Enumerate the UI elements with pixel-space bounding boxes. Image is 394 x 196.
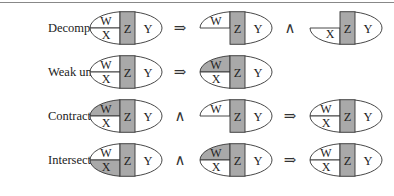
- svg-text:Z: Z: [124, 110, 132, 124]
- svg-text:Y: Y: [143, 66, 152, 80]
- svg-text:X: X: [102, 116, 111, 130]
- ellipse-diagram-icon: WXZY: [198, 142, 274, 178]
- svg-text:W: W: [100, 58, 112, 72]
- svg-text:Z: Z: [234, 154, 242, 168]
- and-operator: ∧: [279, 10, 301, 46]
- term-w-only-ellipse: WZY: [198, 98, 274, 134]
- svg-text:W: W: [210, 146, 222, 160]
- axiom-row-decomposition: Decomposition:WXZYWZYXZY⇒∧: [0, 10, 394, 54]
- svg-text:Y: Y: [143, 110, 152, 124]
- svg-text:W: W: [210, 102, 222, 116]
- svg-text:Y: Y: [253, 110, 262, 124]
- implies-operator: ⇒: [169, 10, 191, 46]
- svg-text:X: X: [102, 160, 111, 174]
- term-full-ellipse: WXZY: [88, 54, 164, 90]
- svg-text:W: W: [100, 14, 112, 28]
- term-x-only-ellipse: XZY: [308, 10, 384, 46]
- ellipse-diagram-icon: WZY: [198, 98, 274, 134]
- svg-text:W: W: [100, 102, 112, 116]
- svg-text:Z: Z: [124, 22, 132, 36]
- svg-text:X: X: [212, 160, 221, 174]
- ellipse-diagram-icon: WXZY: [198, 54, 274, 90]
- ellipse-diagram-icon: WXZY: [88, 142, 164, 178]
- svg-text:X: X: [102, 72, 111, 86]
- svg-text:Z: Z: [344, 110, 352, 124]
- svg-text:X: X: [212, 72, 221, 86]
- term-w-only-ellipse: WZY: [198, 10, 274, 46]
- svg-text:Z: Z: [124, 154, 132, 168]
- svg-text:X: X: [326, 27, 335, 41]
- svg-text:Z: Z: [234, 66, 242, 80]
- term-full-ellipse: WXZY: [308, 142, 384, 178]
- svg-text:Y: Y: [253, 66, 262, 80]
- svg-text:W: W: [320, 102, 332, 116]
- term-full-ellipse: WXZY: [308, 98, 384, 134]
- svg-text:Z: Z: [344, 154, 352, 168]
- svg-text:W: W: [100, 146, 112, 160]
- svg-text:X: X: [322, 160, 331, 174]
- svg-text:Z: Z: [234, 22, 242, 36]
- term-full-ellipse: WXZY: [198, 54, 274, 90]
- and-operator: ∧: [169, 142, 191, 178]
- ellipse-diagram-icon: XZY: [308, 10, 384, 46]
- term-full-ellipse: WXZY: [88, 142, 164, 178]
- svg-text:Y: Y: [363, 154, 372, 168]
- svg-text:Y: Y: [143, 154, 152, 168]
- axiom-row-intersection: Intersection:WXZYWXZYWXZY∧⇒: [0, 142, 394, 186]
- top-rule: [0, 2, 394, 3]
- term-full-ellipse: WXZY: [88, 10, 164, 46]
- svg-text:W: W: [210, 58, 222, 72]
- svg-text:W: W: [320, 146, 332, 160]
- svg-text:Y: Y: [363, 22, 372, 36]
- svg-text:W: W: [210, 14, 222, 28]
- term-full-ellipse: WXZY: [88, 98, 164, 134]
- svg-text:Z: Z: [344, 22, 352, 36]
- and-operator: ∧: [169, 98, 191, 134]
- axiom-row-contraction: Contraction:WXZYWZYWXZY∧⇒: [0, 98, 394, 142]
- term-full-ellipse: WXZY: [198, 142, 274, 178]
- svg-text:Z: Z: [234, 110, 242, 124]
- ellipse-diagram-icon: WZY: [198, 10, 274, 46]
- svg-text:Z: Z: [124, 66, 132, 80]
- svg-text:X: X: [322, 116, 331, 130]
- svg-text:Y: Y: [253, 22, 262, 36]
- implies-operator: ⇒: [279, 98, 301, 134]
- implies-operator: ⇒: [279, 142, 301, 178]
- ellipse-diagram-icon: WXZY: [308, 142, 384, 178]
- ellipse-diagram-icon: WXZY: [308, 98, 384, 134]
- svg-text:Y: Y: [253, 154, 262, 168]
- ellipse-diagram-icon: WXZY: [88, 10, 164, 46]
- ellipse-diagram-icon: WXZY: [88, 98, 164, 134]
- svg-text:Y: Y: [143, 22, 152, 36]
- svg-text:X: X: [102, 28, 111, 42]
- implies-operator: ⇒: [169, 54, 191, 90]
- ellipse-diagram-icon: WXZY: [88, 54, 164, 90]
- axiom-row-weakunion: Weak union:WXZYWXZY⇒: [0, 54, 394, 98]
- svg-text:Y: Y: [363, 110, 372, 124]
